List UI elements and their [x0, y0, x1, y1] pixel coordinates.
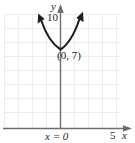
y-tick-label-10: 10 [47, 12, 58, 23]
y-axis-arrowhead [57, 4, 64, 13]
parabola-graph-figure: y 10 (0, 7) x = 0 5 x [0, 0, 135, 143]
x-tick-label-5: 5 [110, 130, 116, 141]
x-axis-label: x [122, 130, 127, 141]
graph-canvas [0, 0, 135, 143]
y-axis [57, 4, 64, 129]
vertex-point-label: (0, 7) [57, 50, 81, 61]
axis-of-symmetry-label: x = 0 [45, 131, 68, 142]
grid-lines [4, 14, 120, 128]
